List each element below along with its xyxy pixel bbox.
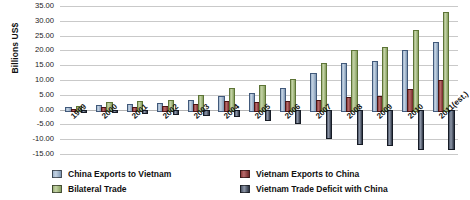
y-axis-tick-label: 30.00 bbox=[2, 16, 54, 26]
y-axis-tick-label: 10.00 bbox=[2, 75, 54, 85]
bar-group bbox=[366, 6, 397, 154]
bar-vietnam-trade-deficit-with-china bbox=[81, 110, 87, 113]
y-axis-tick-labels: 35.0030.0025.0020.0015.0010.005.000.00-5… bbox=[0, 6, 58, 154]
bar-bilateral-trade bbox=[382, 47, 388, 112]
bar-group bbox=[274, 6, 305, 154]
bar-bilateral-trade bbox=[413, 30, 419, 112]
bar-bilateral-trade bbox=[443, 12, 449, 111]
legend-item-china[interactable]: China Exports to Vietnam bbox=[52, 169, 240, 179]
bar-vietnam-trade-deficit-with-china bbox=[112, 110, 118, 114]
legend-swatch-icon bbox=[52, 170, 62, 178]
legend-item-deficit[interactable]: Vietnam Trade Deficit with China bbox=[240, 184, 452, 194]
y-axis-tick-label: 15.00 bbox=[2, 60, 54, 70]
y-axis-tick-label: 0.00 bbox=[2, 105, 54, 115]
bar-bilateral-trade bbox=[259, 85, 265, 111]
y-axis-tick-label: -5.00 bbox=[2, 119, 54, 129]
bar-group bbox=[60, 6, 91, 154]
legend-label: Vietnam Exports to China bbox=[256, 169, 359, 179]
bar-vietnam-trade-deficit-with-china bbox=[265, 110, 271, 121]
bar-group bbox=[213, 6, 244, 154]
bar-group bbox=[121, 6, 152, 154]
y-axis-tick-label: -10.00 bbox=[2, 134, 54, 144]
legend-label: China Exports to Vietnam bbox=[68, 169, 171, 179]
legend-label: Vietnam Trade Deficit with China bbox=[256, 184, 388, 194]
bar-vietnam-trade-deficit-with-china bbox=[173, 110, 179, 115]
legend-item-bilat[interactable]: Bilateral Trade bbox=[52, 184, 240, 194]
y-axis-tick-label: 5.00 bbox=[2, 90, 54, 100]
bar-vietnam-trade-deficit-with-china bbox=[387, 110, 393, 146]
plot-area bbox=[60, 6, 458, 154]
bar-group bbox=[305, 6, 336, 154]
bar-group bbox=[152, 6, 183, 154]
y-axis-tick-label: -15.00 bbox=[2, 149, 54, 159]
bar-group bbox=[182, 6, 213, 154]
legend-swatch-icon bbox=[240, 170, 250, 178]
legend-swatch-icon bbox=[52, 185, 62, 193]
bar-group bbox=[397, 6, 428, 154]
y-axis-tick-label: 35.00 bbox=[2, 1, 54, 11]
bar-bilateral-trade bbox=[351, 50, 357, 111]
legend-label: Bilateral Trade bbox=[68, 184, 127, 194]
y-axis-tick-label: 25.00 bbox=[2, 31, 54, 41]
bar-vietnam-trade-deficit-with-china bbox=[418, 110, 424, 151]
bar-vietnam-trade-deficit-with-china bbox=[203, 110, 209, 116]
bar-vietnam-trade-deficit-with-china bbox=[234, 110, 240, 118]
bar-vietnam-trade-deficit-with-china bbox=[142, 110, 148, 114]
bar-bilateral-trade bbox=[290, 79, 296, 112]
bar-vietnam-trade-deficit-with-china bbox=[357, 110, 363, 145]
bar-group bbox=[91, 6, 122, 154]
bar-group bbox=[427, 6, 458, 154]
bar-group bbox=[336, 6, 367, 154]
legend-item-vietnam[interactable]: Vietnam Exports to China bbox=[240, 169, 452, 179]
bar-groups bbox=[60, 6, 458, 154]
y-axis-tick-label: 20.00 bbox=[2, 45, 54, 55]
bar-bilateral-trade bbox=[321, 63, 327, 112]
bar-group bbox=[244, 6, 275, 154]
gridline bbox=[60, 154, 458, 155]
bar-vietnam-trade-deficit-with-china bbox=[448, 110, 454, 151]
bar-bilateral-trade bbox=[229, 88, 235, 112]
bar-vietnam-trade-deficit-with-china bbox=[326, 110, 332, 139]
bar-vietnam-trade-deficit-with-china bbox=[295, 110, 301, 125]
legend-swatch-icon bbox=[240, 185, 250, 193]
chart-legend: China Exports to VietnamVietnam Exports … bbox=[52, 166, 452, 196]
